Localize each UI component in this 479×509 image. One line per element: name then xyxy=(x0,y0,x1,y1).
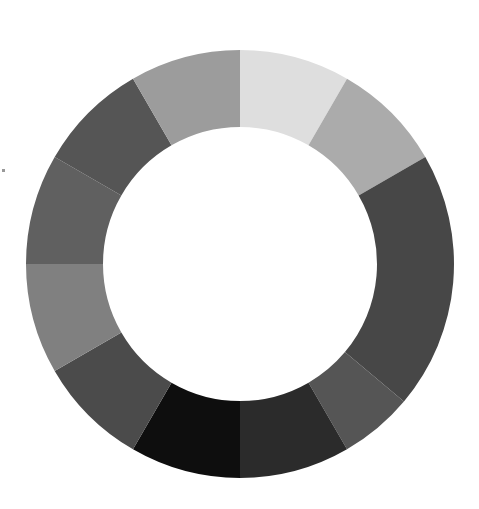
donut-chart xyxy=(0,0,479,509)
